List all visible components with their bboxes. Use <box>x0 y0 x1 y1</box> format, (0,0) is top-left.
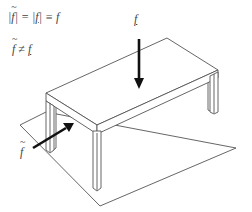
table-leg-right-front <box>210 72 218 114</box>
table-leg-front-left <box>46 101 54 153</box>
table-leg-front-right <box>93 131 101 191</box>
table-diagram <box>0 0 252 212</box>
diagonal-force-label: f <box>20 145 23 160</box>
vertical-force-label: f <box>134 12 137 27</box>
